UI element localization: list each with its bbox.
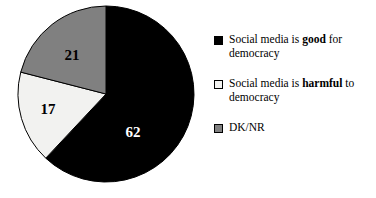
legend-text-part1: DK/NR [229, 121, 265, 133]
legend-item-harmful: Social media is harmful to democracy [214, 77, 374, 104]
legend-swatch-dknr [214, 124, 223, 133]
legend-text-part2: to [342, 77, 354, 89]
legend-swatch-good [214, 36, 223, 45]
legend-label-dknr: DK/NR [229, 121, 265, 135]
pie-chart-area: 621721 [0, 0, 212, 198]
legend-text-part1: Social media is [229, 33, 302, 45]
pie-chart-figure: 621721 Social media is good for democrac… [0, 0, 376, 198]
pie-chart-svg: 621721 [0, 0, 212, 198]
pie-value-label-harmful: 17 [41, 101, 57, 117]
legend-label-harmful: Social media is harmful to democracy [229, 77, 354, 104]
legend-text-bold: harmful [302, 77, 342, 89]
pie-slice-group [18, 6, 194, 182]
legend-label-good: Social media is good for democracy [229, 33, 342, 60]
legend-text-line2: democracy [229, 47, 342, 61]
legend-item-good: Social media is good for democracy [214, 33, 374, 60]
legend-text-bold: good [302, 33, 326, 45]
chart-legend: Social media is good for democracy Socia… [214, 33, 374, 152]
legend-swatch-harmful [214, 80, 223, 89]
pie-value-label-good: 62 [126, 124, 141, 140]
legend-text-line2: democracy [229, 91, 354, 105]
legend-item-dknr: DK/NR [214, 121, 374, 135]
legend-text-part1: Social media is [229, 77, 302, 89]
pie-value-label-dknr: 21 [65, 47, 80, 63]
legend-text-part2: for [326, 33, 342, 45]
